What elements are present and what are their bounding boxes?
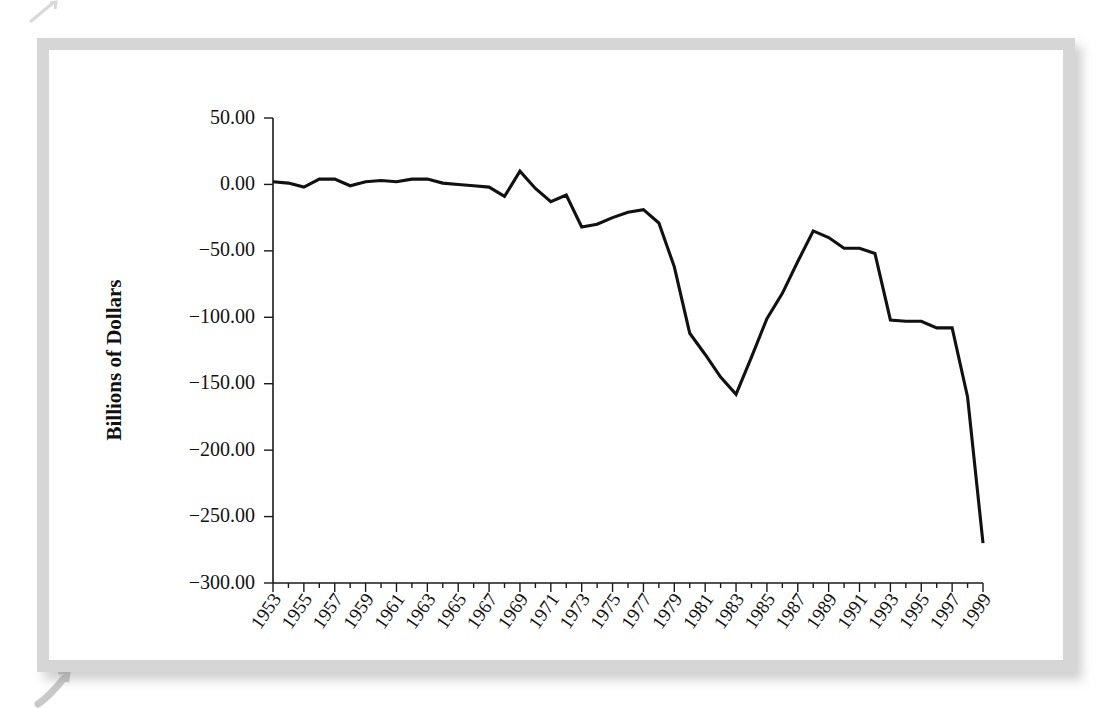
- x-tick-label: 1987: [771, 589, 810, 632]
- x-tick-label: 1969: [493, 589, 532, 632]
- x-tick-label: 1979: [648, 589, 687, 632]
- x-tick-label: 1971: [524, 589, 563, 632]
- scan-mark-top-icon: [28, 0, 68, 26]
- x-axis-ticks: 1953195519571959196119631965196719691971…: [246, 583, 995, 632]
- y-tick-label: −200.00: [189, 438, 255, 460]
- x-tick-label: 1983: [709, 589, 748, 632]
- y-tick-label: −50.00: [199, 238, 255, 260]
- x-tick-label: 1997: [925, 589, 964, 632]
- figure-frame: Billions of Dollars 50.000.00−50.00−100.…: [37, 38, 1075, 672]
- y-tick-label: −150.00: [189, 371, 255, 393]
- x-tick-label: 1989: [802, 589, 841, 632]
- x-tick-label: 1993: [864, 589, 903, 632]
- x-tick-label: 1955: [277, 589, 316, 632]
- y-tick-label: 50.00: [210, 106, 255, 128]
- line-chart: Billions of Dollars 50.000.00−50.00−100.…: [49, 50, 1063, 660]
- x-tick-label: 1977: [617, 589, 656, 632]
- page-root: Billions of Dollars 50.000.00−50.00−100.…: [0, 0, 1113, 708]
- y-tick-label: 0.00: [220, 172, 255, 194]
- scan-mark-bottom-icon: [34, 666, 90, 708]
- x-tick-label: 1961: [370, 589, 409, 632]
- x-tick-label: 1953: [246, 589, 285, 632]
- data-series-line: [273, 171, 983, 543]
- y-tick-label: −100.00: [189, 305, 255, 327]
- x-tick-label: 1999: [956, 589, 995, 632]
- y-axis-ticks: 50.000.00−50.00−100.00−150.00−200.00−250…: [189, 106, 273, 593]
- figure-canvas: Billions of Dollars 50.000.00−50.00−100.…: [49, 50, 1063, 660]
- x-tick-label: 1967: [462, 589, 501, 632]
- y-axis-title: Billions of Dollars: [102, 279, 126, 440]
- x-tick-label: 1973: [555, 589, 594, 632]
- x-tick-label: 1991: [833, 589, 872, 632]
- y-tick-label: −250.00: [189, 504, 255, 526]
- x-tick-label: 1965: [431, 589, 470, 632]
- x-tick-label: 1963: [401, 589, 440, 632]
- y-tick-label: −300.00: [189, 571, 255, 593]
- x-tick-label: 1995: [895, 589, 934, 632]
- x-tick-label: 1959: [339, 589, 378, 632]
- x-tick-label: 1957: [308, 589, 347, 632]
- x-tick-label: 1975: [586, 589, 625, 632]
- x-tick-label: 1981: [678, 589, 717, 632]
- x-tick-label: 1985: [740, 589, 779, 632]
